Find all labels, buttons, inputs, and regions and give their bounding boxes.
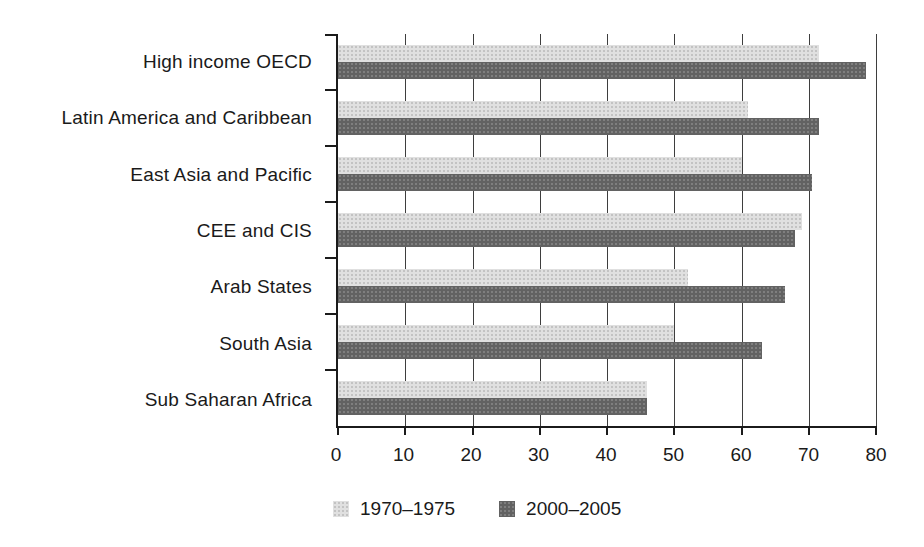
bar-1970-1975 bbox=[338, 213, 802, 230]
grouped-bar-chart-figure: High income OECDLatin America and Caribb… bbox=[0, 0, 924, 547]
bar-1970-1975 bbox=[338, 101, 748, 118]
category-label: East Asia and Pacific bbox=[0, 147, 312, 203]
y-axis-tick bbox=[325, 257, 336, 259]
bar-2000-2005 bbox=[338, 342, 762, 359]
x-tick-label-10: 10 bbox=[393, 444, 414, 466]
bar-group-row bbox=[338, 34, 876, 90]
legend: 1970–19752000–2005 bbox=[333, 498, 621, 520]
bar-group-row bbox=[338, 202, 876, 258]
x-axis-tick bbox=[673, 426, 675, 435]
bar-2000-2005 bbox=[338, 230, 795, 247]
category-label: Latin America and Caribbean bbox=[0, 90, 312, 146]
bar-group-row bbox=[338, 370, 876, 426]
bar-2000-2005 bbox=[338, 286, 785, 303]
plot-area bbox=[336, 34, 876, 428]
bar-group-row bbox=[338, 258, 876, 314]
bar-2000-2005 bbox=[338, 174, 812, 191]
legend-label: 2000–2005 bbox=[526, 498, 621, 520]
x-axis-tick bbox=[539, 426, 541, 435]
category-label: CEE and CIS bbox=[0, 203, 312, 259]
x-axis-tick bbox=[404, 426, 406, 435]
legend-item: 1970–1975 bbox=[333, 498, 455, 520]
legend-item: 2000–2005 bbox=[499, 498, 621, 520]
category-label: Sub Saharan Africa bbox=[0, 372, 312, 428]
x-tick-label-0: 0 bbox=[331, 444, 342, 466]
x-tick-label-50: 50 bbox=[663, 444, 684, 466]
x-tick-label-30: 30 bbox=[528, 444, 549, 466]
x-axis-tick-labels: 01020304050607080 bbox=[336, 444, 876, 468]
y-axis-tick bbox=[325, 313, 336, 315]
bar-group-row bbox=[338, 314, 876, 370]
category-axis-labels: High income OECDLatin America and Caribb… bbox=[0, 34, 312, 428]
bar-2000-2005 bbox=[338, 62, 866, 79]
y-axis-tick bbox=[325, 201, 336, 203]
legend-swatch-1970-1975 bbox=[333, 501, 349, 517]
x-tick-label-40: 40 bbox=[595, 444, 616, 466]
y-axis-tick bbox=[325, 145, 336, 147]
x-tick-label-60: 60 bbox=[730, 444, 751, 466]
x-axis-tick bbox=[337, 426, 339, 435]
x-tick-label-80: 80 bbox=[865, 444, 886, 466]
bar-1970-1975 bbox=[338, 157, 742, 174]
bar-1970-1975 bbox=[338, 269, 688, 286]
y-axis-tick bbox=[325, 369, 336, 371]
x-tick-label-20: 20 bbox=[460, 444, 481, 466]
bar-1970-1975 bbox=[338, 381, 647, 398]
bar-2000-2005 bbox=[338, 398, 647, 415]
y-axis-tick bbox=[325, 34, 336, 36]
x-axis-tick bbox=[606, 426, 608, 435]
bar-2000-2005 bbox=[338, 118, 819, 135]
legend-swatch-2000-2005 bbox=[499, 501, 515, 517]
y-axis-tick bbox=[325, 89, 336, 91]
bar-rows-layer bbox=[338, 34, 876, 426]
x-axis-tick bbox=[741, 426, 743, 435]
bar-1970-1975 bbox=[338, 325, 674, 342]
category-label: Arab States bbox=[0, 259, 312, 315]
x-axis-tick bbox=[875, 426, 877, 435]
bar-group-row bbox=[338, 146, 876, 202]
category-label: South Asia bbox=[0, 315, 312, 371]
legend-label: 1970–1975 bbox=[360, 498, 455, 520]
x-tick-label-70: 70 bbox=[798, 444, 819, 466]
x-axis-tick bbox=[472, 426, 474, 435]
bar-group-row bbox=[338, 90, 876, 146]
gridline-80 bbox=[876, 34, 877, 426]
category-label: High income OECD bbox=[0, 34, 312, 90]
x-axis-tick bbox=[808, 426, 810, 435]
bar-1970-1975 bbox=[338, 45, 819, 62]
